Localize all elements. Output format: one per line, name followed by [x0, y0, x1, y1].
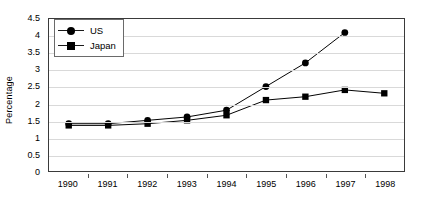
legend-label-japan: Japan	[90, 40, 116, 51]
circle-marker-icon	[58, 25, 84, 37]
gridline	[49, 122, 404, 123]
x-tick-label: 1994	[216, 179, 236, 189]
data-point-japan	[223, 112, 229, 118]
x-tick-mark	[326, 174, 327, 178]
gridline	[49, 87, 404, 88]
y-tick-label: 1.5	[14, 116, 44, 126]
y-tick-label: 4.5	[14, 13, 44, 23]
data-point-japan	[302, 94, 308, 100]
x-tick-label: 1990	[58, 179, 78, 189]
legend-item-us: US	[58, 23, 116, 38]
x-tick-mark	[127, 174, 128, 178]
x-tick-label: 1995	[256, 179, 276, 189]
x-tick-mark	[365, 174, 366, 178]
legend-item-japan: Japan	[58, 38, 116, 53]
line-chart: Percentage 00.511.522.533.544.5 19901991…	[0, 0, 426, 211]
y-tick-label: 0.5	[14, 150, 44, 160]
y-tick-label: 3	[14, 64, 44, 74]
x-tick-mark	[207, 174, 208, 178]
gridline	[49, 139, 404, 140]
square-marker-icon	[58, 40, 84, 52]
x-tick-label: 1996	[296, 179, 316, 189]
y-tick-label: 4	[14, 30, 44, 40]
y-tick-label: 2	[14, 99, 44, 109]
x-tick-mark	[286, 174, 287, 178]
x-tick-mark	[246, 174, 247, 178]
chart-legend: US Japan	[54, 19, 124, 57]
gridline	[49, 105, 404, 106]
gridline	[49, 156, 404, 157]
y-tick-label: 2.5	[14, 81, 44, 91]
data-point-japan	[263, 97, 269, 103]
x-axis-tick-labels: 199019911992199319941995199619971998	[48, 174, 405, 194]
y-tick-label: 0	[14, 167, 44, 177]
gridline	[49, 70, 404, 71]
y-tick-label: 1	[14, 133, 44, 143]
x-tick-label: 1998	[375, 179, 395, 189]
legend-label-us: US	[90, 25, 103, 36]
y-tick-label: 3.5	[14, 47, 44, 57]
x-tick-mark	[88, 174, 89, 178]
x-tick-label: 1991	[97, 179, 117, 189]
x-tick-label: 1997	[335, 179, 355, 189]
data-point-japan	[105, 122, 111, 128]
data-point-japan	[66, 122, 72, 128]
x-tick-label: 1993	[177, 179, 197, 189]
x-tick-mark	[167, 174, 168, 178]
data-point-us	[341, 29, 348, 36]
y-axis-tick-labels: 00.511.522.533.544.5	[14, 0, 44, 200]
data-point-japan	[381, 90, 387, 96]
x-tick-label: 1992	[137, 179, 157, 189]
data-point-us	[302, 60, 309, 67]
